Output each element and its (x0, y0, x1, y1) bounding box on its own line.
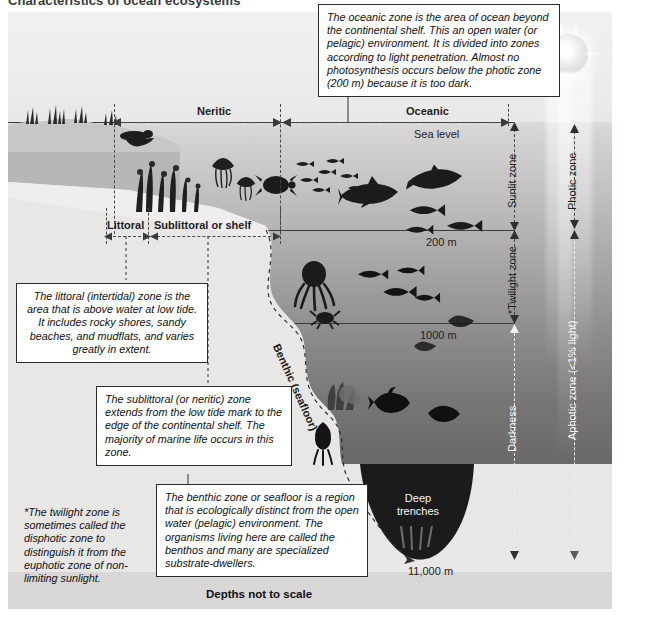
diagram-canvas: Characteristics of ocean ecosystems (0, 0, 653, 621)
page-title: Characteristics of ocean ecosystems (8, 0, 241, 8)
callout-sublittoral-text: The sublittoral (or neritic) zone extend… (105, 393, 282, 458)
callout-oceanic-text: The oceanic zone is the area of ocean be… (327, 11, 549, 89)
callout-littoral-zone: The littoral (intertidal) zone is the ar… (16, 283, 208, 363)
callout-oceanic-zone: The oceanic zone is the area of ocean be… (318, 4, 560, 97)
callout-littoral-text: The littoral (intertidal) zone is the ar… (27, 290, 197, 355)
scale-disclaimer: Depths not to scale (206, 588, 312, 600)
callout-benthic-zone: The benthic zone or seafloor is a region… (156, 484, 368, 577)
twilight-footnote-text: *The twilight zone is sometimes called t… (24, 506, 128, 584)
twilight-zone-footnote: *The twilight zone is sometimes called t… (24, 506, 150, 585)
callout-benthic-text: The benthic zone or seafloor is a region… (165, 491, 359, 569)
callout-sublittoral-zone: The sublittoral (or neritic) zone extend… (96, 386, 292, 466)
